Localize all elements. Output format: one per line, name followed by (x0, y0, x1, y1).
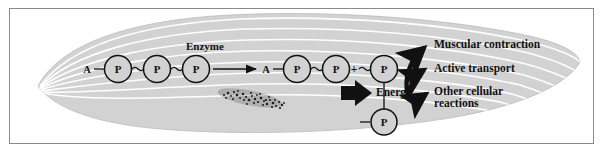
output-label-line2: reactions (434, 97, 479, 109)
atom-phosphate-l3: P (193, 63, 200, 75)
output-label-line1: Other cellular (434, 85, 503, 97)
atom-phosphate-l1: P (115, 63, 122, 75)
output-label-other-cellular-reactions: Other cellular reactions (434, 85, 503, 109)
atom-phosphate-r1: P (294, 63, 301, 75)
atom-adenosine-left: A (83, 64, 91, 75)
output-label-muscular-contraction: Muscular contraction (434, 38, 540, 50)
atom-adenosine-right: A (262, 64, 270, 75)
energy-label: Energy (376, 86, 412, 98)
atom-phosphate-l2: P (154, 63, 161, 75)
atom-released-phosphate: P (381, 116, 388, 128)
plus-sign: + (351, 63, 358, 75)
figure-root: A P P P A P P + P P (0, 0, 605, 154)
atom-phosphate-r2: P (333, 63, 340, 75)
diagram-canvas: A P P P A P P + P P (0, 0, 605, 154)
atom-free-phosphate: P (381, 63, 388, 75)
output-label-active-transport: Active transport (434, 62, 515, 74)
enzyme-label: Enzyme (186, 41, 224, 53)
